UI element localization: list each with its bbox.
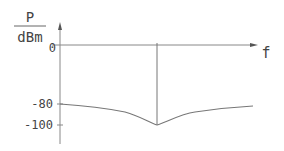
spectrum-diagram: P dBm f 0 -80 -100 bbox=[0, 0, 284, 151]
y-axis-arrow-icon bbox=[58, 22, 62, 30]
x-axis-label: f bbox=[261, 44, 270, 62]
tick-label-0: 0 bbox=[49, 41, 56, 55]
tick-label-minus-80: -80 bbox=[31, 97, 53, 111]
y-axis-label-unit: dBm bbox=[17, 29, 42, 45]
y-axis-label-p: P bbox=[26, 9, 34, 25]
x-axis-arrow-icon bbox=[250, 43, 258, 47]
tick-label-minus-100: -100 bbox=[24, 118, 53, 132]
